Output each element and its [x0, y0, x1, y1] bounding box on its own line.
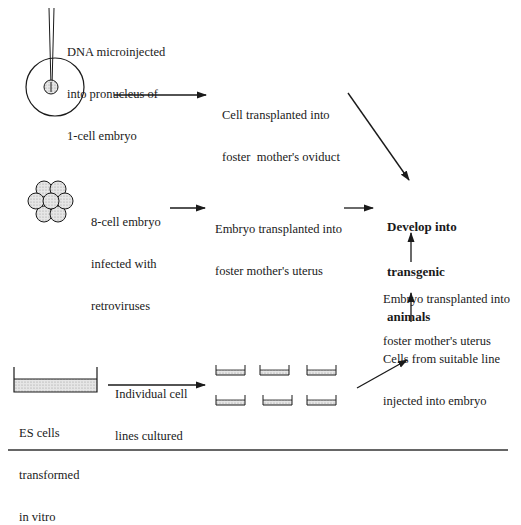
label-line: DNA microinjected	[67, 45, 165, 59]
small-dish-icon	[307, 395, 336, 405]
uterus-transplant-label: Embryo transplanted into foster mother's…	[215, 194, 342, 306]
oviduct-transplant-label: Cell transplanted into foster mother's o…	[222, 80, 340, 192]
small-dish-icon	[216, 365, 245, 375]
label-line: into pronucleus of	[67, 87, 165, 101]
label-line: retroviruses	[91, 299, 161, 313]
label-line: Individual cell	[115, 387, 188, 401]
label-line: Embryo transplanted into	[215, 222, 342, 236]
small-dish-icon	[307, 365, 336, 375]
micropipette-icon	[49, 8, 54, 86]
label-line: 8-cell embryo	[91, 215, 161, 229]
label-line: transformed	[19, 468, 79, 482]
label-line: ES cells	[19, 426, 79, 440]
label-line: Cells from suitable line	[383, 352, 500, 366]
label-line: 1-cell embryo	[67, 129, 165, 143]
arrow-oviduct-to-outcome	[348, 93, 409, 180]
label-line: Cell transplanted into	[222, 108, 340, 122]
es-cells-label: ES cells transformed in vitro	[19, 398, 79, 525]
label-line: Embryo transplanted into	[383, 292, 510, 306]
label-line: injected into embryo	[383, 394, 500, 408]
cell-lines-cultured-label: Individual cell lines cultured	[115, 359, 188, 471]
small-dish-icon	[260, 365, 289, 375]
small-dishes-group	[216, 365, 336, 405]
label-line: infected with	[91, 257, 161, 271]
label-line: in vitro	[19, 510, 79, 524]
small-dish-icon	[216, 395, 245, 405]
culture-dish-icon	[14, 367, 97, 392]
small-dish-icon	[263, 395, 292, 405]
label-line: lines cultured	[115, 429, 188, 443]
eight-cell-embryo-icon	[28, 181, 73, 222]
retrovirus-label: 8-cell embryo infected with retroviruses	[91, 187, 161, 341]
label-line: Develop into	[387, 219, 457, 234]
label-line: foster mother's uterus	[215, 264, 342, 278]
es-injection-label: Cells from suitable line injected into e…	[383, 324, 500, 436]
microinjection-label: DNA microinjected into pronucleus of 1-c…	[67, 17, 165, 171]
label-line: foster mother's oviduct	[222, 150, 340, 164]
